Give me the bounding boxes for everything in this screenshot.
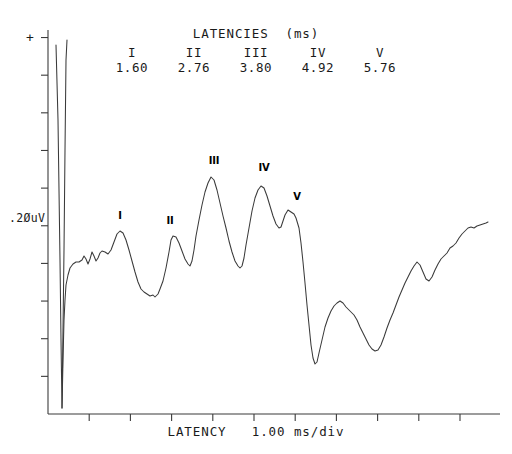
abr-waveform-screen: LATENCIES (ms) I II III IV V 1.60 2.76 3…	[0, 0, 512, 454]
peak-label-I: I	[118, 211, 121, 221]
x-axis-ticks	[89, 414, 460, 421]
x-axis-label: LATENCY 1.00 ms/div	[0, 424, 512, 439]
abr-waveform-trace	[62, 177, 488, 408]
peak-label-III: III	[209, 156, 219, 166]
y-axis-ticks	[41, 38, 48, 377]
peak-label-II: II	[167, 216, 174, 226]
peak-label-IV: IV	[259, 163, 270, 173]
peak-label-V: V	[293, 192, 300, 202]
waveform-plot	[0, 0, 512, 454]
stimulus-artifact-trace	[56, 40, 67, 408]
